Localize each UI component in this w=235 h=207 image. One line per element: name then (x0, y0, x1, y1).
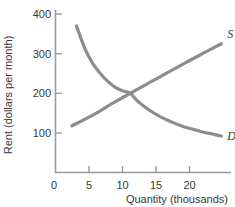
x-tick-label-20: 20 (183, 179, 195, 191)
x-tick-label-10: 10 (116, 179, 128, 191)
y-axis-ticks (56, 14, 63, 133)
x-axis-title: Quantity (thousands) (126, 193, 228, 205)
x-tick-label-0: 0 (51, 179, 57, 191)
supply-curve (72, 44, 221, 126)
demand-curve-label: D (226, 129, 235, 143)
chart-canvas: 400 300 200 100 0 5 10 15 20 Quantity (t… (0, 0, 235, 207)
x-tick-label-5: 5 (86, 179, 92, 191)
supply-demand-chart: 400 300 200 100 0 5 10 15 20 Quantity (t… (0, 0, 235, 207)
y-tick-label-200: 200 (33, 87, 51, 99)
y-axis-title: Rent (dollars per month) (2, 36, 14, 155)
supply-curve-label: S (227, 27, 233, 41)
x-tick-label-15: 15 (150, 179, 162, 191)
y-tick-label-400: 400 (33, 8, 51, 20)
x-axis-ticks (89, 166, 190, 173)
y-tick-label-300: 300 (33, 48, 51, 60)
demand-curve (76, 26, 221, 136)
y-tick-label-100: 100 (33, 127, 51, 139)
